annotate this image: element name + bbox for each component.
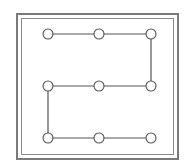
node-circle-r1c1 [43,29,53,39]
node-circle-r3c1 [43,133,53,143]
node-circle-r2c2 [94,81,104,91]
node-circle-r2c1 [43,81,53,91]
grid-path-diagram [0,0,189,168]
node-circle-r3c2 [94,133,104,143]
node-circle-r2c3 [146,81,156,91]
node-circle-r3c3 [146,133,156,143]
node-circle-r1c2 [94,29,104,39]
node-circle-r1c3 [146,29,156,39]
